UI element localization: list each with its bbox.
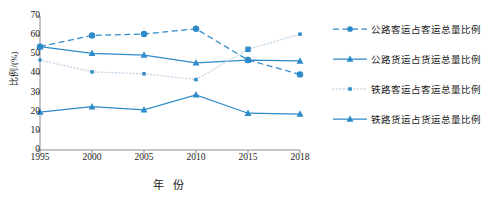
data-point	[89, 103, 96, 109]
x-axis-tick-label: 1995	[31, 152, 50, 162]
data-point	[90, 70, 94, 74]
y-axis-tick-label: 20	[16, 107, 40, 117]
x-axis-tick-label: 2000	[83, 152, 102, 162]
axes-layer	[37, 16, 301, 154]
chart-svg	[0, 0, 330, 200]
chart-container: 比例/(%) 010203040506070 19952000200520102…	[0, 0, 490, 200]
legend-item[interactable]: 公路客运占客运总量比例	[332, 14, 490, 44]
x-axis-title: 年 份	[40, 176, 300, 192]
legend-item[interactable]: 铁路货运占货运总量比例	[332, 104, 490, 134]
y-axis-tick-label: 70	[16, 11, 40, 21]
data-point	[298, 32, 302, 36]
data-point	[193, 91, 200, 97]
chart-series	[37, 43, 304, 66]
x-axis-tick-label: 2005	[135, 152, 154, 162]
y-axis-tick-label: 50	[16, 50, 40, 60]
legend-item[interactable]: 铁路客运占客运总量比例	[332, 74, 490, 104]
data-point	[142, 72, 146, 76]
legend-label: 公路客运占客运总量比例	[368, 22, 481, 36]
data-point	[89, 32, 95, 38]
chart-series	[37, 91, 304, 117]
x-axis-tick-label: 2015	[239, 152, 258, 162]
legend-marker-circle-icon	[332, 22, 368, 36]
plot-area: 比例/(%) 010203040506070 19952000200520102…	[0, 0, 330, 200]
legend-marker-square-icon	[332, 82, 368, 96]
y-axis-tick-label: 30	[16, 88, 40, 98]
y-axis-tick-label: 10	[16, 126, 40, 136]
x-axis-tick-labels: 199520002005201020152018	[40, 152, 300, 168]
data-point	[141, 31, 147, 37]
series-layer	[37, 26, 304, 117]
x-axis-tick-label: 2018	[291, 152, 310, 162]
x-axis-tick-label: 2010	[187, 152, 206, 162]
y-axis-tick-label: 40	[16, 69, 40, 79]
legend-label: 铁路客运占客运总量比例	[368, 82, 481, 96]
data-point	[194, 78, 198, 82]
legend-marker-triangle-icon	[332, 112, 368, 126]
legend-marker-triangle-icon	[332, 52, 368, 66]
legend-label: 公路货运占货运总量比例	[368, 52, 481, 66]
legend-item[interactable]: 公路货运占货运总量比例	[332, 44, 490, 74]
data-point	[193, 26, 199, 32]
data-point	[297, 71, 303, 77]
y-axis-tick-label: 60	[16, 30, 40, 40]
y-axis-tick-labels: 010203040506070	[16, 16, 40, 150]
legend-label: 铁路货运占货运总量比例	[368, 112, 481, 126]
chart-series	[38, 32, 301, 81]
chart-legend: 公路客运占客运总量比例公路货运占货运总量比例铁路客运占客运总量比例铁路货运占货运…	[332, 14, 490, 134]
data-point	[245, 47, 250, 52]
